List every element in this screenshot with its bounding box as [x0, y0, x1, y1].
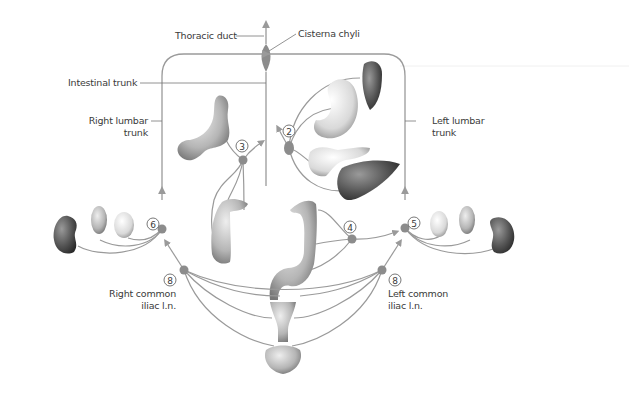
left-lumbar-vessels [405, 228, 496, 253]
svg-text:8: 8 [167, 276, 173, 286]
label-left-common-iliac-line1: Left common [388, 288, 448, 300]
left-gonad [430, 211, 448, 237]
label-left-lumbar-line1: Left lumbar [432, 115, 484, 127]
label-intestinal-trunk: Intestinal trunk [68, 77, 137, 89]
left-common-iliac-node [378, 266, 387, 275]
svg-text:3: 3 [239, 142, 245, 152]
small-intestine [178, 96, 230, 161]
label-right-common-iliac-line2: iliac l.n. [90, 300, 176, 312]
label-left-common-iliac: Left common iliac l.n. [388, 288, 448, 312]
right-adrenal [91, 206, 107, 234]
svg-text:8: 8 [392, 276, 398, 286]
uterus [270, 302, 296, 342]
inferior-mesenteric-node [348, 235, 357, 244]
svg-text:5: 5 [411, 219, 417, 229]
left-kidney [490, 217, 514, 253]
label-right-common-iliac-line1: Right common [90, 288, 176, 300]
right-kidney [54, 216, 77, 254]
svg-text:6: 6 [150, 220, 156, 230]
label-cisterna-chyli: Cisterna chyli [298, 28, 360, 40]
celiac-node [284, 141, 294, 155]
label-right-lumbar-line1: Right lumbar [70, 115, 148, 127]
right-gonad [114, 212, 134, 238]
left-adrenal [459, 206, 475, 234]
superior-mesenteric-node [239, 156, 248, 165]
label-thoracic-duct: Thoracic duct [175, 30, 237, 42]
spleen [362, 61, 382, 110]
svg-text:4: 4 [347, 223, 353, 233]
right-common-iliac-node [180, 266, 189, 275]
label-left-lumbar-line2: trunk [432, 127, 484, 139]
descending-colon [270, 201, 317, 300]
stomach [314, 79, 358, 138]
ascending-colon [211, 199, 248, 264]
label-right-lumbar-line2: trunk [70, 127, 148, 139]
cisterna-chyli [262, 44, 271, 72]
label-right-lumbar-trunk: Right lumbar trunk [70, 115, 148, 139]
liver [337, 161, 400, 201]
svg-text:2: 2 [286, 127, 292, 137]
label-left-lumbar-trunk: Left lumbar trunk [432, 115, 484, 139]
lymphatic-drainage-diagram: 2 3 4 5 [0, 0, 629, 407]
label-right-common-iliac: Right common iliac l.n. [90, 288, 176, 312]
bladder [265, 346, 301, 375]
label-left-common-iliac-line2: iliac l.n. [388, 300, 448, 312]
